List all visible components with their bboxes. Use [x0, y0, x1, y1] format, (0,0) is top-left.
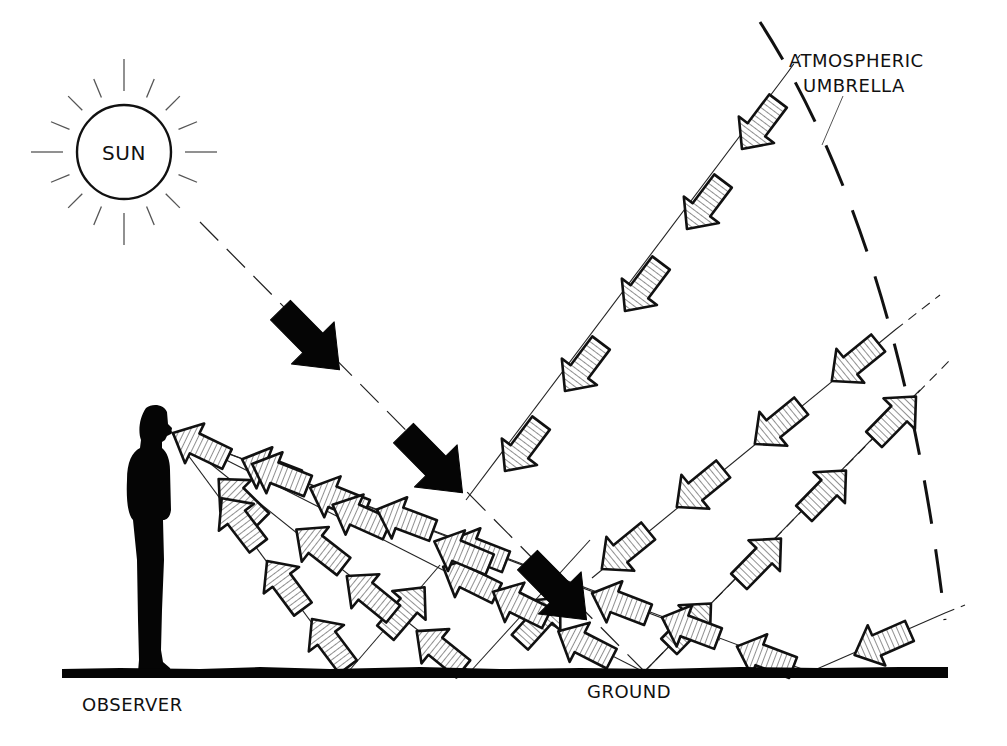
sun-ray — [94, 79, 102, 97]
sky-ray-mid-tail — [895, 295, 940, 330]
observer-silhouette — [127, 405, 172, 672]
diffuse-skylight-arrow — [547, 330, 618, 404]
sun-label: SUN — [102, 141, 146, 165]
sun-ray — [147, 79, 155, 97]
reflected-light-arrow — [723, 523, 796, 597]
diffuse-skylight-arrow — [741, 389, 815, 461]
diffuse-skylight-arrow — [588, 514, 662, 586]
diffuse-skylight-arrow — [669, 168, 740, 242]
diffuse-skylight-arrow — [724, 88, 795, 162]
umbrella-leader-line — [822, 96, 843, 145]
reflected-light-arrow — [788, 455, 861, 529]
atmospheric-umbrella-arc — [760, 22, 945, 620]
diffuse-skylight-arrow — [663, 452, 737, 524]
diffuse-skylight-arrow — [487, 410, 558, 484]
umbrella-label: ATMOSPHERIC UMBRELLA — [789, 50, 924, 96]
sun-ray — [147, 207, 155, 225]
light-to-observer-arrow — [249, 548, 320, 622]
direct-sunlight-arrow — [259, 289, 361, 391]
sky-ray-low-tail — [945, 605, 965, 613]
ground-line — [62, 667, 948, 678]
sun-ray — [179, 122, 197, 130]
diffuse-skylight-arrow — [846, 611, 919, 675]
sun-ray — [94, 207, 102, 225]
light-to-observer-arrow — [729, 626, 801, 688]
light-to-observer-arrow — [163, 413, 236, 479]
reflected-light-arrow — [858, 381, 931, 455]
diffuse-skylight-arrow — [607, 250, 678, 324]
light-to-observer-arrow — [584, 573, 656, 636]
direct-sunlight-arrow — [382, 412, 484, 514]
umbrella-label-line2: UMBRELLA — [803, 75, 905, 96]
sun-ray — [51, 175, 69, 183]
sun-ray — [51, 122, 69, 130]
observer-label: OBSERVER — [82, 694, 183, 715]
ground-label: GROUND — [587, 681, 671, 702]
light-to-observer-arrow — [654, 597, 726, 659]
atmospheric-scattering-diagram: SUN ATMOSPHERIC UMBRELLA OBSERVER GROUND — [0, 0, 1007, 746]
sun-ray — [68, 96, 82, 110]
direct-sunlight-arrows — [259, 289, 608, 641]
sun-ray — [179, 175, 197, 183]
sun-ray — [68, 194, 82, 208]
sun-ray — [166, 96, 180, 110]
umbrella-label-line1: ATMOSPHERIC — [789, 50, 924, 71]
diffuse-skylight-arrow — [818, 326, 892, 398]
sun: SUN — [31, 59, 217, 245]
sun-ray — [166, 194, 180, 208]
